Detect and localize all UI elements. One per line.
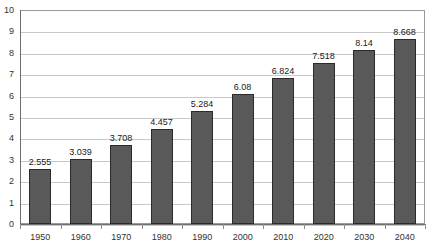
bar-slot: 8.668 <box>385 10 426 224</box>
bar <box>394 39 416 224</box>
x-axis-label-2030: 2030 <box>344 232 384 242</box>
y-axis-label-2: 2 <box>0 177 14 186</box>
bar <box>353 50 375 224</box>
bar <box>70 159 92 224</box>
bar-slot: 6.824 <box>263 10 304 224</box>
bar <box>272 78 294 224</box>
y-axis-label-0: 0 <box>0 220 14 229</box>
x-axis-label-2010: 2010 <box>263 232 303 242</box>
x-axis-tick <box>263 224 264 229</box>
x-axis-tick <box>344 224 345 229</box>
y-axis-label-6: 6 <box>0 92 14 101</box>
x-axis-label-1970: 1970 <box>101 232 141 242</box>
y-axis-label-4: 4 <box>0 134 14 143</box>
bar-series: 2.5553.0393.7084.4575.2846.086.8247.5188… <box>20 10 425 224</box>
x-axis-tick <box>101 224 102 229</box>
x-axis-label-2020: 2020 <box>304 232 344 242</box>
x-axis-label-1950: 1950 <box>20 232 60 242</box>
bar <box>191 111 213 224</box>
x-axis-tick <box>304 224 305 229</box>
x-axis-label-2000: 2000 <box>223 232 263 242</box>
y-axis-label-1: 1 <box>0 199 14 208</box>
bar-slot: 8.14 <box>344 10 385 224</box>
x-axis-label-1980: 1980 <box>142 232 182 242</box>
y-axis-label-7: 7 <box>0 70 14 79</box>
bar-slot: 6.08 <box>223 10 264 224</box>
x-axis-label-1960: 1960 <box>61 232 101 242</box>
bar <box>151 129 173 224</box>
bar-slot: 4.457 <box>142 10 183 224</box>
bar-slot: 3.039 <box>61 10 102 224</box>
x-axis-tick <box>20 224 21 229</box>
x-axis-tick <box>223 224 224 229</box>
y-axis-label-10: 10 <box>0 6 14 15</box>
x-axis-label-2040: 2040 <box>385 232 425 242</box>
x-axis-tick <box>142 224 143 229</box>
x-axis-tick <box>425 224 426 229</box>
bar-slot: 5.284 <box>182 10 223 224</box>
x-axis-label-1990: 1990 <box>182 232 222 242</box>
bar <box>313 63 335 224</box>
x-axis-tick <box>61 224 62 229</box>
y-axis-label-5: 5 <box>0 113 14 122</box>
bar-slot: 2.555 <box>20 10 61 224</box>
x-axis-tick <box>385 224 386 229</box>
x-axis-tick <box>182 224 183 229</box>
bar-value-label: 8.668 <box>376 27 434 37</box>
bar <box>110 145 132 224</box>
y-axis-label-8: 8 <box>0 49 14 58</box>
bar <box>232 94 254 224</box>
y-axis-label-9: 9 <box>0 27 14 36</box>
bar <box>29 169 51 224</box>
bar-chart: 109876543210 2.5553.0393.7084.4575.2846.… <box>0 0 437 252</box>
